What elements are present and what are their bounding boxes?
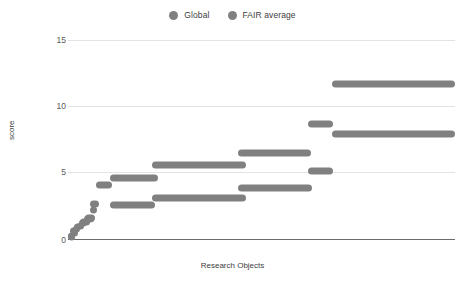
data-point-band	[152, 162, 246, 169]
y-tick-label-15: 15	[40, 35, 66, 45]
x-axis-title: Research Objects	[0, 261, 465, 270]
plot-area	[68, 40, 455, 240]
gridline-5	[68, 172, 455, 173]
chart-container: Global FAIR average 15 10 5 0 score Rese…	[0, 0, 465, 284]
data-point-band	[238, 184, 312, 191]
data-point-band	[90, 200, 99, 207]
data-point-band	[308, 120, 333, 127]
legend-marker-global-icon	[169, 11, 178, 20]
legend-label-global: Global	[184, 10, 209, 20]
data-point-band	[332, 130, 455, 137]
legend-item-global[interactable]: Global	[169, 10, 209, 20]
gridline-10	[68, 106, 455, 107]
legend-label-fair-average: FAIR average	[243, 10, 296, 20]
x-axis-line	[68, 239, 455, 240]
data-point-band	[84, 215, 94, 222]
legend-item-fair-average[interactable]: FAIR average	[228, 10, 296, 20]
data-point-band	[110, 202, 155, 209]
data-point-band	[110, 174, 158, 181]
chart-legend: Global FAIR average	[0, 10, 465, 20]
data-point-band	[332, 80, 455, 87]
y-tick-label-5: 5	[40, 167, 66, 177]
gridline-15	[68, 40, 455, 41]
y-axis-title: score	[7, 120, 16, 140]
data-point-band	[96, 182, 112, 189]
data-point-band	[308, 168, 333, 175]
y-tick-label-10: 10	[40, 101, 66, 111]
data-point-band	[238, 149, 311, 156]
y-tick-label-0: 0	[40, 235, 66, 245]
legend-marker-fair-average-icon	[228, 11, 237, 20]
data-point-band	[152, 194, 246, 201]
data-point-band	[90, 207, 97, 214]
